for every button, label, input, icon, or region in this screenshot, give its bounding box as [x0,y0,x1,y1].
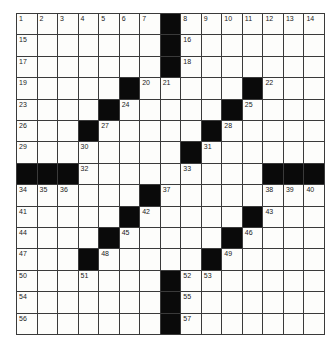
grid-cell[interactable]: 3 [58,14,78,34]
grid-cell[interactable] [140,292,160,312]
grid-cell[interactable] [120,292,140,312]
grid-cell[interactable] [38,271,58,291]
grid-cell[interactable] [161,249,181,269]
grid-cell[interactable]: 27 [99,121,119,141]
grid-cell[interactable]: 28 [222,121,242,141]
grid-cell[interactable] [58,207,78,227]
grid-cell[interactable] [304,207,324,227]
grid-cell[interactable] [140,249,160,269]
grid-cell[interactable] [140,57,160,77]
grid-cell[interactable] [58,142,78,162]
grid-cell[interactable] [120,121,140,141]
grid-cell[interactable] [181,121,201,141]
grid-cell[interactable]: 48 [99,249,119,269]
grid-cell[interactable]: 26 [17,121,37,141]
grid-cell[interactable] [263,271,283,291]
grid-cell[interactable] [58,249,78,269]
grid-cell[interactable]: 11 [243,14,263,34]
grid-cell[interactable] [58,228,78,248]
grid-cell[interactable]: 29 [17,142,37,162]
grid-cell[interactable] [79,100,99,120]
grid-cell[interactable] [181,207,201,227]
grid-cell[interactable] [181,249,201,269]
grid-cell[interactable] [202,292,222,312]
grid-cell[interactable]: 54 [17,292,37,312]
grid-cell[interactable]: 5 [99,14,119,34]
grid-cell[interactable]: 35 [38,185,58,205]
grid-cell[interactable]: 38 [263,185,283,205]
grid-cell[interactable] [243,142,263,162]
grid-cell[interactable] [202,185,222,205]
grid-cell[interactable] [58,35,78,55]
grid-cell[interactable] [161,100,181,120]
grid-cell[interactable]: 9 [202,14,222,34]
grid-cell[interactable] [120,271,140,291]
grid-cell[interactable] [222,185,242,205]
grid-cell[interactable]: 21 [161,78,181,98]
grid-cell[interactable]: 46 [243,228,263,248]
grid-cell[interactable]: 20 [140,78,160,98]
grid-cell[interactable]: 16 [181,35,201,55]
grid-cell[interactable] [58,121,78,141]
grid-cell[interactable]: 33 [181,164,201,184]
grid-cell[interactable] [38,57,58,77]
grid-cell[interactable] [284,142,304,162]
grid-cell[interactable] [243,164,263,184]
grid-cell[interactable] [284,314,304,334]
grid-cell[interactable] [263,249,283,269]
grid-cell[interactable] [243,292,263,312]
grid-cell[interactable] [140,100,160,120]
grid-cell[interactable] [284,228,304,248]
grid-cell[interactable] [304,271,324,291]
grid-cell[interactable] [202,35,222,55]
grid-cell[interactable] [263,292,283,312]
grid-cell[interactable]: 23 [17,100,37,120]
grid-cell[interactable] [304,57,324,77]
grid-cell[interactable] [58,78,78,98]
grid-cell[interactable] [222,57,242,77]
grid-cell[interactable] [38,314,58,334]
grid-cell[interactable] [304,78,324,98]
grid-cell[interactable] [99,164,119,184]
grid-cell[interactable] [58,292,78,312]
grid-cell[interactable] [79,185,99,205]
grid-cell[interactable] [263,228,283,248]
grid-cell[interactable] [38,35,58,55]
grid-cell[interactable] [181,185,201,205]
grid-cell[interactable]: 44 [17,228,37,248]
grid-cell[interactable] [140,271,160,291]
grid-cell[interactable] [99,292,119,312]
grid-cell[interactable]: 57 [181,314,201,334]
grid-cell[interactable] [99,78,119,98]
grid-cell[interactable] [202,78,222,98]
grid-cell[interactable]: 51 [79,271,99,291]
grid-cell[interactable]: 19 [17,78,37,98]
grid-cell[interactable] [304,142,324,162]
grid-cell[interactable] [222,164,242,184]
grid-cell[interactable] [222,35,242,55]
grid-cell[interactable] [38,292,58,312]
grid-cell[interactable] [99,207,119,227]
grid-cell[interactable] [181,100,201,120]
grid-cell[interactable]: 45 [120,228,140,248]
grid-cell[interactable] [161,164,181,184]
grid-cell[interactable] [79,314,99,334]
grid-cell[interactable] [304,35,324,55]
grid-cell[interactable]: 6 [120,14,140,34]
grid-cell[interactable] [140,314,160,334]
grid-cell[interactable]: 42 [140,207,160,227]
grid-cell[interactable] [79,207,99,227]
grid-cell[interactable] [202,228,222,248]
grid-cell[interactable] [202,207,222,227]
grid-cell[interactable]: 36 [58,185,78,205]
grid-cell[interactable] [243,185,263,205]
grid-cell[interactable]: 53 [202,271,222,291]
grid-cell[interactable] [140,142,160,162]
grid-cell[interactable] [304,314,324,334]
grid-cell[interactable] [120,142,140,162]
grid-cell[interactable]: 8 [181,14,201,34]
grid-cell[interactable]: 43 [263,207,283,227]
grid-cell[interactable] [243,314,263,334]
grid-cell[interactable] [58,57,78,77]
grid-cell[interactable]: 49 [222,249,242,269]
